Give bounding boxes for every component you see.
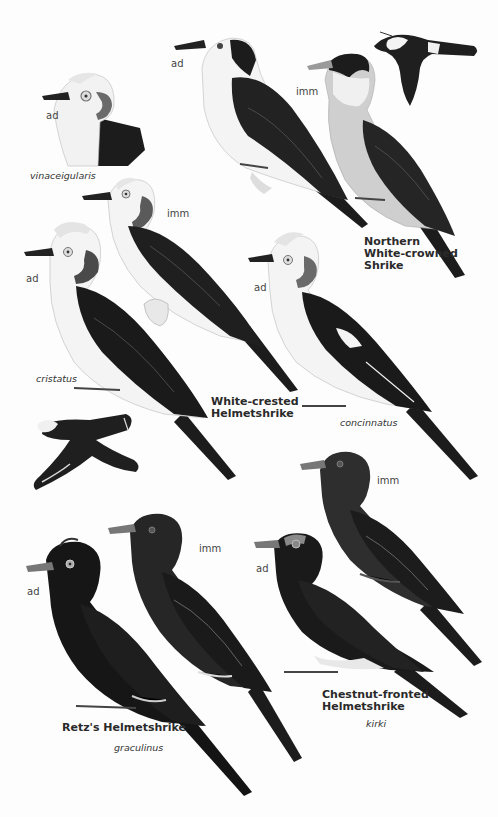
age-label: ad	[171, 58, 183, 69]
age-label: ad	[27, 586, 39, 597]
field-guide-plate: ad vinaceigularis ad imm Northern White-…	[0, 0, 498, 817]
bird-retzs-helmetshrike-ad	[26, 540, 256, 800]
bird-northern-white-crowned-shrike-flight	[372, 28, 482, 110]
age-label: ad	[46, 110, 58, 121]
subspecies-label: cristatus	[36, 373, 77, 384]
age-label: ad	[254, 282, 266, 293]
bird-white-crested-helmetshrike-concinnatus-ad	[246, 232, 486, 482]
subspecies-label: kirki	[366, 718, 386, 729]
age-label: imm	[296, 86, 318, 97]
common-name-label: Retz's Helmetshrike	[62, 722, 186, 734]
bird-white-crested-helmetshrike-flight	[30, 410, 150, 496]
common-name-label: Helmetshrike	[322, 701, 405, 713]
subspecies-label: concinnatus	[340, 417, 397, 428]
age-label: imm	[377, 475, 399, 486]
age-label: imm	[167, 208, 189, 219]
subspecies-label: graculinus	[114, 742, 163, 753]
age-label: ad	[26, 273, 38, 284]
